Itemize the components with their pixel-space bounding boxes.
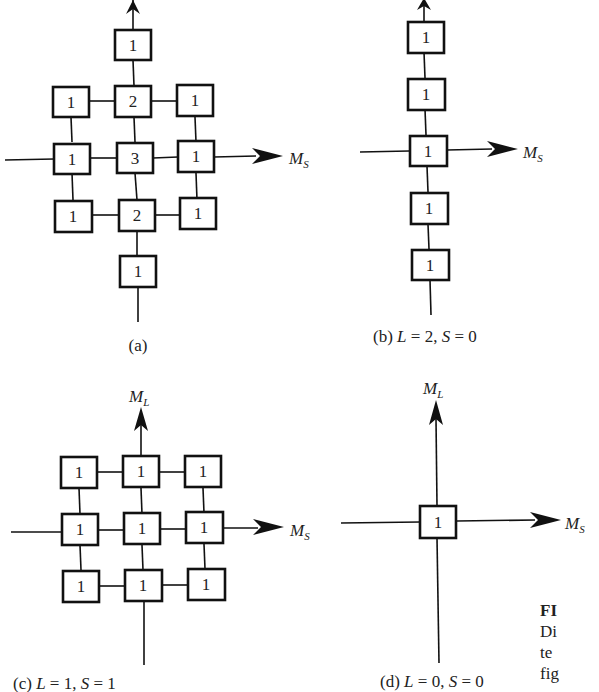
connector (72, 173, 73, 200)
svg-text:2: 2 (129, 92, 138, 111)
svg-text:1: 1 (76, 520, 85, 539)
state-box: 1 (411, 193, 448, 224)
svg-text:1: 1 (422, 28, 431, 47)
svg-text:1: 1 (200, 518, 209, 537)
svg-text:1: 1 (138, 519, 147, 538)
figure-label: FI (540, 601, 557, 620)
panel-a-ms-axis (214, 156, 256, 157)
svg-text:1: 1 (422, 85, 431, 104)
panel-d-ms-label: MS (564, 514, 585, 535)
state-box: 1 (124, 513, 160, 544)
state-box: 1 (410, 136, 447, 166)
state-box: 1 (120, 256, 156, 287)
caption-line: te (540, 642, 559, 663)
state-box: 1 (177, 85, 213, 116)
panel-d-caption: (d) L = 0, S = 0 (380, 672, 484, 691)
svg-text:1: 1 (425, 199, 434, 218)
connector (427, 166, 428, 192)
svg-text:2: 2 (133, 206, 142, 225)
svg-text:1: 1 (67, 93, 76, 112)
panel-a-ms-axis (5, 159, 54, 160)
state-box: 1 (63, 571, 99, 602)
svg-text:1: 1 (194, 204, 203, 223)
svg-text:1: 1 (134, 262, 143, 281)
connector (204, 544, 205, 569)
caption-line: Di (540, 621, 559, 642)
connector (196, 173, 197, 200)
panel-d-ml-label: ML (422, 379, 443, 400)
connector (79, 488, 80, 514)
connector (135, 173, 137, 200)
connector (203, 488, 204, 513)
panel-c-caption: (c) L = 1, S = 1 (13, 674, 116, 692)
svg-text:3: 3 (131, 149, 140, 168)
svg-text:1: 1 (434, 513, 443, 532)
svg-text:1: 1 (69, 207, 78, 226)
state-box: 1 (123, 456, 159, 487)
state-box: 1 (408, 79, 445, 110)
connector (133, 60, 134, 86)
panel-d-ms-axis (457, 520, 535, 521)
connector (71, 117, 72, 142)
term-diagram-figure: MS 1 1 2 1 1 3 1 1 2 1 1 (a) MS 1 1 1 1 … (0, 0, 599, 692)
arrow-right-icon (252, 148, 283, 164)
panel-b-caption: (b) L = 2, S = 0 (373, 327, 477, 346)
panel-d-ml-axis (437, 538, 439, 663)
svg-text:1: 1 (192, 147, 201, 166)
state-box: 1 (55, 201, 92, 232)
panel-c-ml-label: ML (128, 387, 149, 408)
panel-a-ms-label: MS (288, 149, 309, 170)
state-box: 2 (115, 86, 151, 117)
svg-text:1: 1 (68, 150, 77, 169)
panel-c: ML MS 1 1 1 1 1 1 1 1 1 (c) L = 1, S = 1 (11, 387, 310, 692)
state-box: 1 (412, 250, 449, 280)
svg-text:1: 1 (426, 256, 435, 275)
connector (424, 52, 425, 78)
connector (195, 117, 196, 142)
state-box: 1 (188, 569, 225, 600)
panel-b-ms-axis (360, 151, 409, 152)
svg-text:1: 1 (129, 36, 138, 55)
svg-text:1: 1 (137, 462, 146, 481)
panel-b-ms-axis (447, 149, 492, 150)
state-box: 1 (186, 512, 223, 543)
svg-text:1: 1 (191, 91, 200, 110)
state-box: 1 (180, 198, 216, 229)
panel-c-ms-label: MS (289, 521, 310, 542)
connector (134, 117, 135, 142)
connector (153, 157, 178, 158)
arrow-right-icon (253, 519, 284, 535)
panel-b-ms-label: MS (522, 143, 543, 164)
connector (141, 488, 142, 514)
panel-b: MS 1 1 1 1 1 (b) L = 2, S = 0 (360, 0, 543, 346)
svg-text:1: 1 (139, 576, 148, 595)
panel-a: MS 1 1 2 1 1 3 1 1 2 1 1 (a) (5, 0, 309, 355)
connector (430, 280, 431, 315)
figure-caption-fragment: FI Di te fig (540, 600, 559, 684)
svg-text:1: 1 (424, 142, 433, 161)
connector (425, 109, 426, 135)
state-box: 1 (420, 506, 456, 538)
svg-text:1: 1 (75, 463, 84, 482)
panel-d-ml-axis (436, 419, 437, 506)
state-box: 1 (115, 30, 151, 60)
svg-text:1: 1 (202, 575, 211, 594)
state-box: 1 (408, 22, 444, 53)
state-box: 1 (125, 570, 162, 601)
state-box: 1 (61, 457, 97, 488)
state-box: 1 (54, 144, 90, 174)
state-box: 3 (117, 143, 153, 173)
svg-text:1: 1 (199, 462, 208, 481)
state-box: 1 (62, 514, 98, 545)
state-box: 2 (119, 200, 155, 231)
svg-text:1: 1 (77, 577, 86, 596)
state-box: 1 (178, 141, 214, 172)
connector (428, 224, 429, 249)
caption-line: fig (540, 663, 559, 684)
connector (80, 545, 81, 570)
state-box: 1 (185, 456, 221, 487)
panel-a-caption: (a) (129, 336, 148, 355)
panel-d-ms-axis (341, 522, 420, 523)
connector (142, 545, 143, 570)
state-box: 1 (53, 87, 89, 117)
